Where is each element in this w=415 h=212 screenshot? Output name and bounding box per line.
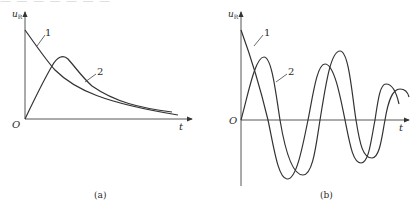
x-axis-label-a: t: [179, 121, 184, 132]
panel-b: uR O t 1 2 (b): [228, 9, 409, 200]
curve-label-1-a: 1: [45, 27, 51, 38]
panel-a: uR O t 1 2 (a): [12, 9, 192, 200]
leader-1-b: [254, 35, 263, 46]
y-axis-label-a: uR: [12, 9, 23, 20]
origin-label-b: O: [229, 115, 237, 126]
curve-label-2-a: 2: [97, 66, 103, 77]
curve-label-2-b: 2: [288, 66, 294, 77]
figure: uR O t 1 2 (a) uR O t 1 2 (b): [0, 0, 415, 212]
leader-1-a: [37, 35, 45, 46]
origin-label-a: O: [12, 119, 20, 130]
caption-b: (b): [320, 190, 333, 200]
leader-2-a: [85, 74, 96, 82]
curve-label-1-b: 1: [264, 27, 270, 38]
caption-a: (a): [94, 190, 106, 200]
y-axis-label-b: uR: [228, 9, 239, 20]
leader-2-b: [276, 74, 287, 82]
x-axis-label-b: t: [399, 122, 404, 133]
